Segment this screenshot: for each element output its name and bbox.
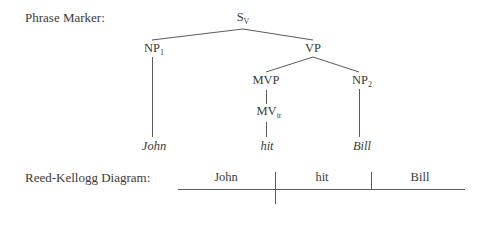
node-mvp: MVP bbox=[252, 73, 279, 88]
rk-object: Bill bbox=[411, 170, 430, 185]
leaf-hit: hit bbox=[260, 139, 273, 154]
node-mv-base: MV bbox=[256, 104, 276, 118]
node-s-sub: V bbox=[244, 17, 250, 26]
node-np1-base: NP bbox=[144, 41, 160, 55]
node-np1: NP1 bbox=[144, 41, 164, 57]
node-mvp-base: MVP bbox=[252, 73, 279, 87]
branch-vp-np2 bbox=[313, 57, 359, 72]
node-np1-sub: 1 bbox=[160, 48, 164, 57]
node-vp-base: VP bbox=[305, 41, 321, 55]
node-mv-sub: tr bbox=[277, 111, 282, 120]
reed-kellogg-label: Reed-Kellogg Diagram: bbox=[25, 170, 150, 186]
node-s-base: S bbox=[237, 10, 244, 24]
diagram-lines bbox=[0, 0, 484, 225]
node-np2-base: NP bbox=[352, 73, 368, 87]
node-mv: MVtr bbox=[256, 104, 281, 120]
leaf-bill: Bill bbox=[353, 139, 371, 154]
node-s: SV bbox=[237, 10, 250, 26]
branch-s-np1 bbox=[152, 29, 243, 40]
branch-s-vp bbox=[243, 29, 313, 40]
node-vp: VP bbox=[305, 41, 321, 56]
branch-vp-mvp bbox=[266, 57, 313, 72]
node-np2-sub: 2 bbox=[368, 80, 372, 89]
leaf-john: John bbox=[142, 139, 166, 154]
rk-verb: hit bbox=[315, 170, 328, 185]
node-np2: NP2 bbox=[352, 73, 372, 89]
phrase-marker-label: Phrase Marker: bbox=[25, 10, 105, 26]
rk-subject: John bbox=[214, 170, 238, 185]
